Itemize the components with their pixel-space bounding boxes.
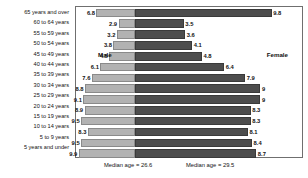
bar-male [83, 95, 135, 104]
table-row: 9.58.4 [76, 138, 302, 148]
bar-female [135, 9, 272, 18]
age-group-label: 40 to 44 years [0, 59, 72, 69]
table-row: 8.89 [76, 84, 302, 94]
bar-value-female: 3.6 [187, 30, 195, 40]
age-group-label: 20 to 24 years [0, 101, 72, 111]
bar-value-female: 3.5 [185, 19, 193, 29]
bar-male [96, 9, 135, 18]
age-group-label: 30 to 34 years [0, 80, 72, 90]
bar-value-male: 9.1 [74, 95, 82, 105]
table-row: 9.19 [76, 95, 302, 105]
table-row: 3.23.6 [76, 30, 302, 40]
bar-value-female: 9 [262, 84, 265, 94]
bar-female [135, 106, 251, 115]
bar-female [135, 139, 252, 148]
bar-male [85, 106, 135, 115]
bar-value-male: 2.9 [109, 19, 117, 29]
age-group-label: 35 to 39 years [0, 69, 72, 79]
age-group-label: 10 to 14 years [0, 121, 72, 131]
age-group-label-column: 65 years and over60 to 64 years55 to 59 … [0, 7, 72, 152]
bar-value-female: 8.1 [249, 127, 257, 137]
series-caption-male: Male [98, 51, 112, 58]
bar-value-male: 8.9 [75, 105, 83, 115]
bar-value-male: 3.2 [107, 30, 115, 40]
bar-rows: 6.89.82.93.53.23.63.84.14.54.86.16.47.67… [76, 7, 302, 157]
bar-male [92, 74, 135, 83]
bar-female [135, 30, 185, 39]
bar-value-female: 8.7 [258, 149, 266, 159]
bar-male [81, 117, 135, 126]
bar-male [88, 128, 135, 137]
bar-value-male: 3.8 [104, 40, 112, 50]
bar-value-female: 8.3 [252, 116, 260, 126]
bar-value-male: 7.6 [82, 73, 90, 83]
bar-value-female: 6.4 [226, 62, 234, 72]
age-group-label: 25 to 29 years [0, 90, 72, 100]
table-row: 7.67.9 [76, 73, 302, 83]
bar-male [119, 19, 135, 28]
bar-value-male: 8.8 [76, 84, 84, 94]
bar-female [135, 117, 251, 126]
bar-value-female: 8.4 [254, 138, 262, 148]
bar-female [135, 84, 260, 93]
bar-female [135, 52, 202, 61]
bar-female [135, 41, 192, 50]
bar-value-male: 9.5 [72, 138, 80, 148]
bar-value-female: 4.1 [194, 40, 202, 50]
bar-value-female: 4.8 [203, 51, 211, 61]
bar-female [135, 74, 245, 83]
age-group-label: 5 to 9 years [0, 132, 72, 142]
bar-value-male: 8.3 [78, 127, 86, 137]
bar-female [135, 128, 248, 137]
bar-male [113, 41, 135, 50]
plot-area: 6.89.82.93.53.23.63.84.14.54.86.16.47.67… [75, 6, 303, 158]
table-row: 8.98.3 [76, 105, 302, 115]
bar-value-female: 9.8 [273, 8, 281, 18]
bar-value-female: 7.9 [247, 73, 255, 83]
age-group-label: 60 to 64 years [0, 17, 72, 27]
median-age-female-note: Median age = 29.5 [186, 162, 234, 168]
table-row: 6.89.8 [76, 8, 302, 18]
bar-value-male: 9.5 [72, 116, 80, 126]
table-row: 2.93.5 [76, 19, 302, 29]
bar-female [135, 63, 224, 72]
bar-value-male: 6.1 [91, 62, 99, 72]
bar-female [135, 149, 256, 158]
bar-value-male: 6.8 [87, 8, 95, 18]
population-pyramid-chart: 65 years and over60 to 64 years55 to 59 … [0, 0, 308, 178]
bar-male [81, 139, 135, 148]
bar-male [85, 84, 135, 93]
bar-male [117, 30, 135, 39]
age-group-label: 50 to 54 years [0, 38, 72, 48]
age-group-label: 65 years and over [0, 7, 72, 17]
bar-value-male: 9.9 [69, 149, 77, 159]
series-caption-female: Female [267, 51, 288, 58]
table-row: 9.58.3 [76, 116, 302, 126]
table-row: 6.16.4 [76, 62, 302, 72]
age-group-label: 55 to 59 years [0, 28, 72, 38]
table-row: 9.98.7 [76, 149, 302, 159]
median-age-male-note: Median age = 26.6 [104, 162, 152, 168]
bar-male [109, 52, 135, 61]
age-group-label: 5 years and under [0, 142, 72, 152]
bar-female [135, 19, 184, 28]
bar-value-female: 8.3 [252, 105, 260, 115]
bar-male [79, 149, 135, 158]
bar-female [135, 95, 260, 104]
age-group-label: 45 to 49 years [0, 49, 72, 59]
table-row: 3.84.1 [76, 40, 302, 50]
bar-value-female: 9 [262, 95, 265, 105]
bar-male [100, 63, 135, 72]
age-group-label: 15 to 19 years [0, 111, 72, 121]
table-row: 8.38.1 [76, 127, 302, 137]
